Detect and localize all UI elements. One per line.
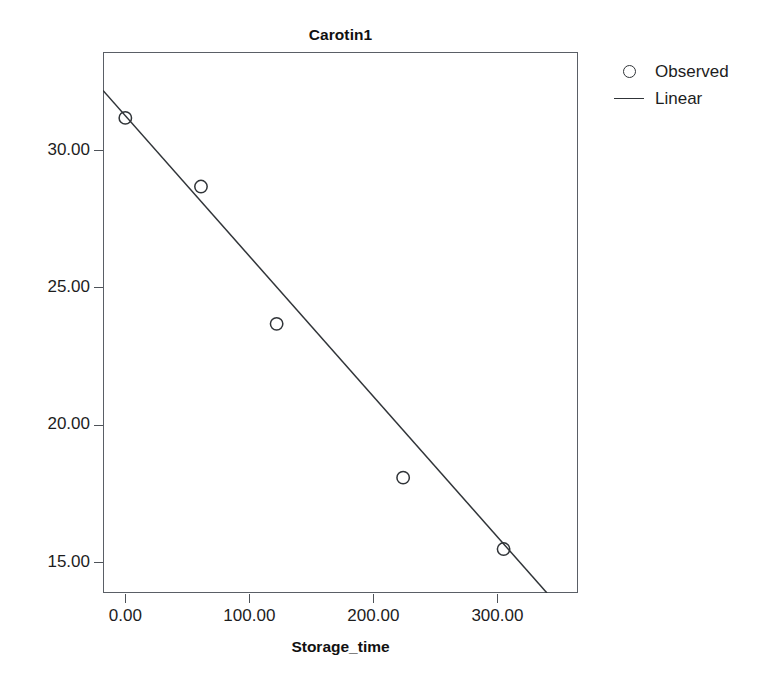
data-point-marker: [397, 471, 409, 483]
x-axis-tick-label: 200.00: [313, 606, 433, 626]
y-axis-tick-label: 30.00: [0, 140, 90, 160]
y-axis-tick-label: 25.00: [0, 277, 90, 297]
x-axis-tick-label: 300.00: [437, 606, 557, 626]
linear-fit-line: [103, 90, 547, 593]
x-axis-title: Storage_time: [103, 638, 578, 656]
chart-legend: Observed Linear: [612, 58, 772, 112]
data-point-marker: [195, 180, 207, 192]
x-axis-tick-mark: [373, 594, 374, 603]
x-axis-tick-label: 0.00: [65, 606, 185, 626]
legend-label-linear: Linear: [646, 89, 702, 109]
legend-item-linear: Linear: [612, 85, 772, 112]
x-axis-tick-mark: [125, 594, 126, 603]
chart-title: Carotin1: [103, 26, 578, 44]
legend-label-observed: Observed: [646, 62, 729, 82]
y-axis-tick-mark: [94, 150, 103, 151]
y-axis-tick-label: 20.00: [0, 414, 90, 434]
line-segment-icon: [612, 98, 646, 99]
plot-data-layer: [103, 52, 578, 593]
y-axis-tick-label: 15.00: [0, 552, 90, 572]
open-circle-icon: [612, 65, 646, 78]
legend-item-observed: Observed: [612, 58, 772, 85]
data-point-marker: [119, 112, 131, 124]
x-axis-tick-mark: [249, 594, 250, 603]
y-axis-tick-mark: [94, 425, 103, 426]
data-point-marker: [270, 318, 282, 330]
x-axis-tick-label: 100.00: [189, 606, 309, 626]
scatter-plot-figure: Carotin1 15.0020.0025.0030.00 0.00100.00…: [0, 0, 772, 686]
x-axis-tick-mark: [497, 594, 498, 603]
y-axis-tick-mark: [94, 562, 103, 563]
observed-points-group: [119, 112, 510, 556]
linear-fit-segment: [103, 90, 547, 593]
y-axis-tick-mark: [94, 287, 103, 288]
